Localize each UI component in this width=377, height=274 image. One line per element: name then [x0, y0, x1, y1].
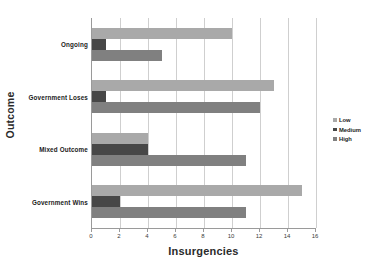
bar: [92, 80, 274, 91]
bar: [92, 28, 232, 39]
y-axis-category-label: Government Wins: [18, 198, 88, 205]
plot-area: [91, 18, 316, 228]
gridline: [316, 18, 317, 228]
x-axis-tick-label: 10: [221, 233, 241, 239]
gridline: [204, 18, 205, 228]
bar: [92, 144, 148, 155]
y-axis-category-label: Ongoing: [18, 41, 88, 48]
y-axis-category-label: Mixed Outcome: [18, 146, 88, 153]
x-axis-tick: [119, 229, 120, 232]
legend-item[interactable]: Low: [333, 117, 377, 123]
bar: [92, 155, 246, 166]
bar: [92, 39, 106, 50]
gridline: [176, 18, 177, 228]
y-axis-category-label: Government Loses: [18, 93, 88, 100]
bar: [92, 133, 148, 144]
y-axis-category-labels: OngoingGovernment LosesMixed OutcomeGove…: [18, 18, 91, 228]
x-axis-tick-label: 2: [109, 233, 129, 239]
x-axis-tick: [147, 229, 148, 232]
x-axis-tick-label: 8: [193, 233, 213, 239]
x-axis-tick-label: 4: [137, 233, 157, 239]
legend-swatch-icon: [333, 128, 337, 132]
gridline: [260, 18, 261, 228]
bar: [92, 185, 302, 196]
x-axis-tick-label: 6: [165, 233, 185, 239]
x-axis-tick: [287, 229, 288, 232]
x-axis-tick-label: 14: [277, 233, 297, 239]
x-axis-tick: [91, 229, 92, 232]
x-axis-tick: [259, 229, 260, 232]
y-axis-title: Outcome: [0, 0, 20, 230]
legend: LowMediumHigh: [333, 117, 377, 146]
bar: [92, 207, 246, 218]
x-axis-tick-label: 16: [305, 233, 325, 239]
bar: [92, 102, 260, 113]
legend-swatch-icon: [333, 118, 337, 122]
bar: [92, 91, 106, 102]
x-axis-tick-label: 12: [249, 233, 269, 239]
bar: [92, 50, 162, 61]
chart-figure: Outcome OngoingGovernment LosesMixed Out…: [0, 0, 377, 274]
legend-item-label: Low: [339, 117, 351, 123]
x-axis-tick: [315, 229, 316, 232]
legend-item[interactable]: High: [333, 136, 377, 142]
legend-item-label: Medium: [339, 127, 361, 133]
x-axis-title: Insurgencies: [91, 245, 316, 257]
gridline: [232, 18, 233, 228]
x-axis-tick: [231, 229, 232, 232]
x-axis-tick: [175, 229, 176, 232]
legend-item-label: High: [339, 136, 352, 142]
legend-swatch-icon: [333, 137, 337, 141]
y-axis-title-text: Outcome: [4, 92, 16, 139]
x-axis-tick-label: 0: [81, 233, 101, 239]
gridline: [288, 18, 289, 228]
legend-item[interactable]: Medium: [333, 127, 377, 133]
bar: [92, 196, 120, 207]
x-axis-tick: [203, 229, 204, 232]
